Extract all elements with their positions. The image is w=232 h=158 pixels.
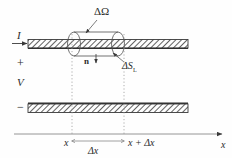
label-delta-omega: ΔΩ: [94, 6, 109, 17]
label-voltage: V: [17, 77, 24, 88]
top-conductor: [28, 40, 188, 49]
label-delta-s-lateral-main: ΔS: [122, 60, 133, 71]
label-x-right: x + Δx: [128, 138, 155, 148]
label-minus-terminal: −: [17, 101, 24, 113]
delta-omega-leader: [86, 20, 97, 33]
diagram-svg: [0, 0, 232, 158]
label-normal-vector: n: [84, 57, 89, 66]
label-delta-x: Δx: [88, 146, 98, 156]
label-delta-s-lateral: ΔSL: [122, 61, 137, 73]
bottom-conductor: [28, 103, 188, 112]
label-x-left: x: [64, 138, 68, 148]
label-axis-x: x: [221, 140, 225, 150]
label-current: I: [17, 30, 21, 41]
delta-x-measure: [72, 139, 125, 142]
label-delta-s-lateral-subscript: L: [133, 66, 137, 73]
figure-canvas: ΔΩ I + V − n ΔSL x x + Δx Δx x: [0, 0, 232, 158]
label-plus-terminal: +: [17, 57, 24, 69]
